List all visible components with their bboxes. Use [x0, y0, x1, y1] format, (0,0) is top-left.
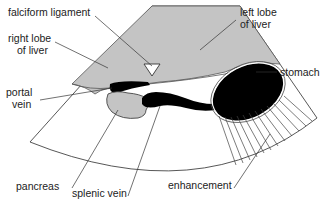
label-falciform-ligament: falciform ligament: [8, 6, 90, 18]
label-enhancement: enhancement: [168, 179, 232, 191]
label-portal-line1: portal: [6, 86, 32, 98]
label-left-lobe-line2: of liver: [240, 18, 271, 30]
label-right-lobe-line1: right lobe: [8, 32, 51, 44]
ultrasound-diagram: falciform ligament right lobe of liver l…: [0, 0, 324, 206]
label-right-lobe-line2: of liver: [17, 44, 48, 56]
label-left-lobe-line1: left lobe: [240, 6, 277, 18]
label-portal-line2: vein: [12, 98, 31, 110]
label-stomach: stomach: [280, 66, 320, 78]
label-splenic-vein: splenic vein: [72, 187, 127, 199]
right-lobe-leader: [55, 42, 108, 68]
label-pancreas: pancreas: [16, 180, 59, 192]
